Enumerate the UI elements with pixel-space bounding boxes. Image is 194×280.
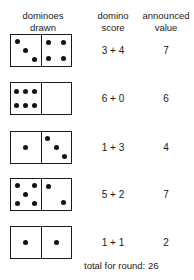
announced-value: 2 xyxy=(138,237,194,248)
pip-dot xyxy=(54,240,59,245)
pip-dot xyxy=(32,183,37,188)
announced-value: 7 xyxy=(138,189,194,200)
header-announced-value: announced value xyxy=(138,10,194,34)
pip-dot xyxy=(23,192,28,197)
domino-tile xyxy=(10,131,72,164)
announced-value: 7 xyxy=(138,45,194,56)
header-line: drawn xyxy=(12,22,74,34)
domino-tile xyxy=(10,82,72,115)
domino-tile xyxy=(10,178,72,211)
domino-score: 6 + 0 xyxy=(92,93,134,104)
pip-dot xyxy=(15,183,20,188)
domino-half-left xyxy=(11,227,42,258)
announced-value: 4 xyxy=(138,142,194,153)
domino-tile xyxy=(10,226,72,259)
pip-dot xyxy=(15,39,20,44)
header-line: score xyxy=(92,22,134,34)
domino-half-left xyxy=(11,132,42,163)
pip-dot xyxy=(32,57,37,62)
domino-half-right xyxy=(42,35,72,66)
domino-row: 5 + 2 7 xyxy=(0,178,194,212)
header-line: domino xyxy=(92,10,134,22)
domino-tile xyxy=(10,34,72,67)
domino-score: 5 + 2 xyxy=(92,189,134,200)
pip-dot xyxy=(23,240,28,245)
pip-dot xyxy=(15,201,20,206)
total-for-round: total for round: 26 xyxy=(84,260,158,271)
pip-dot xyxy=(61,200,66,205)
domino-half-right xyxy=(42,132,72,163)
domino-half-left xyxy=(11,179,42,210)
header-dominoes-drawn: dominoes drawn xyxy=(12,10,74,34)
pip-dot xyxy=(32,103,37,108)
domino-score: 1 + 1 xyxy=(92,237,134,248)
pip-dot xyxy=(46,56,51,61)
header-line: dominoes xyxy=(12,10,74,22)
header-line: value xyxy=(138,22,194,34)
domino-half-left xyxy=(11,35,42,66)
domino-row: 1 + 1 2 xyxy=(0,226,194,260)
domino-score: 1 + 3 xyxy=(92,142,134,153)
header-domino-score: domino score xyxy=(92,10,134,34)
pip-dot xyxy=(14,89,19,94)
domino-row: 3 + 4 7 xyxy=(0,34,194,68)
pip-dot xyxy=(46,184,51,189)
pip-dot xyxy=(23,89,28,94)
domino-row: 6 + 0 6 xyxy=(0,82,194,116)
pip-dot xyxy=(54,145,59,150)
domino-half-right xyxy=(42,227,72,258)
pip-dot xyxy=(32,89,37,94)
header-line: announced xyxy=(138,10,194,22)
domino-half-right xyxy=(42,83,72,114)
domino-score: 3 + 4 xyxy=(92,45,134,56)
pip-dot xyxy=(61,40,66,45)
pip-dot xyxy=(14,103,19,108)
announced-value: 6 xyxy=(138,93,194,104)
pip-dot xyxy=(45,136,50,141)
pip-dot xyxy=(61,56,66,61)
pip-dot xyxy=(62,154,67,159)
pip-dot xyxy=(23,48,28,53)
pip-dot xyxy=(23,103,28,108)
pip-dot xyxy=(32,201,37,206)
domino-half-right xyxy=(42,179,72,210)
domino-half-left xyxy=(11,83,42,114)
pip-dot xyxy=(23,145,28,150)
pip-dot xyxy=(46,40,51,45)
domino-row: 1 + 3 4 xyxy=(0,131,194,165)
